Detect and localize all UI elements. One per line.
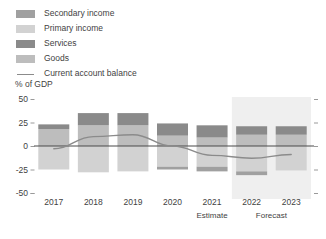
bar-segment [276,146,307,170]
bar-segment [276,126,307,134]
x-axis-tick-label: 2019 [123,197,142,207]
bar-segment [38,129,69,146]
bar-segment [197,167,228,172]
y-axis-tick-label: 25 [19,118,29,128]
x-axis-tick-label: 2017 [44,197,63,207]
bar-segment [157,167,188,170]
y-axis-tick-label: -25 [16,165,29,175]
x-axis-tick-label: 2023 [282,197,301,207]
y-axis-tick-label: 0 [23,141,28,151]
chart-svg: 50250-25-502017201820192020202120222023E… [0,0,326,239]
chart-plot-area: 50250-25-502017201820192020202120222023E… [0,0,326,239]
bar-segment [157,123,188,135]
bar-segment [78,146,109,172]
bar-segment [78,113,109,125]
bar-segment [236,126,267,134]
x-axis-tick-label: 2021 [203,197,222,207]
bar-segment [117,146,148,171]
bar-segment [117,113,148,125]
y-axis-tick-label: 50 [19,94,29,104]
x-axis-tick-label: 2022 [242,197,261,207]
bar-segment [236,135,267,146]
bar-segment [157,146,188,167]
forecast-sublabel: Forecast [256,211,288,220]
bar-segment [38,124,69,129]
estimate-sublabel: Estimate [197,211,229,220]
bar-segment [197,125,228,137]
bar-segment [38,146,69,170]
y-axis-tick-label: -50 [16,188,29,198]
x-axis-tick-label: 2020 [163,197,182,207]
bar-segment [197,138,228,146]
bar-segment [276,135,307,146]
bar-segment [236,171,267,175]
x-axis-tick-label: 2018 [84,197,103,207]
